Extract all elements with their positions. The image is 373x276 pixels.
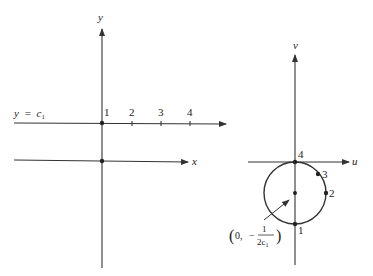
image-point-2 — [324, 191, 328, 195]
left-plot: y y = c1 1 2 3 4 x — [13, 11, 226, 268]
center-coord-zero: 0, — [235, 230, 243, 241]
v-axis-label: v — [293, 39, 298, 51]
image-point-3 — [316, 172, 320, 176]
tick-label-2: 2 — [129, 106, 135, 118]
line-label: y = c1 — [13, 107, 46, 121]
image-point-1-label: 1 — [298, 224, 304, 236]
image-point-2-label: 2 — [329, 187, 335, 199]
x-axis-label: x — [191, 155, 197, 167]
horizontal-line-y-c1 — [14, 123, 226, 124]
open-paren: ( — [229, 227, 234, 245]
tick-label-1: 1 — [104, 106, 110, 118]
fraction-numerator: 1 — [262, 224, 267, 234]
close-paren: ) — [276, 227, 281, 245]
image-point-4 — [293, 160, 297, 164]
tick-label-3: 3 — [158, 106, 164, 118]
minus-sign: − — [249, 230, 255, 241]
point-1-dot — [100, 121, 104, 125]
origin-dot — [100, 159, 104, 163]
mapping-diagram: y y = c1 1 2 3 4 x v u 1 2 3 4 — [0, 0, 373, 276]
center-label: ( 0, − 1 2c1 ) — [229, 224, 281, 248]
fraction-denominator: 2c1 — [257, 237, 269, 248]
circle-center-dot — [293, 191, 297, 195]
image-point-1 — [293, 222, 297, 226]
image-point-4-label: 4 — [298, 148, 304, 160]
u-axis-label: u — [352, 155, 358, 167]
tick-label-4: 4 — [187, 106, 193, 118]
y-axis-label: y — [97, 11, 103, 23]
right-plot: v u 1 2 3 4 ( 0, − 1 2c1 ) — [229, 39, 358, 265]
image-point-3-label: 3 — [322, 168, 328, 180]
